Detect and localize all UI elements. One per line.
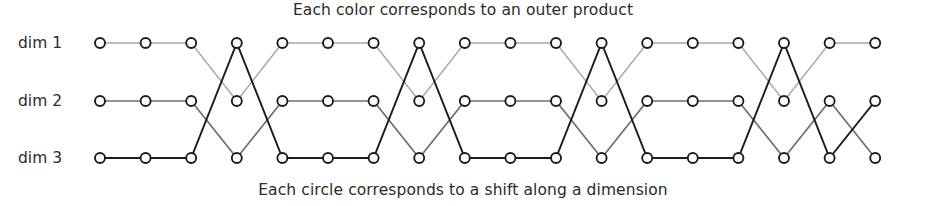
shift-node-circle — [551, 96, 561, 106]
shift-node-circle — [642, 38, 652, 48]
shift-node-circle — [95, 38, 105, 48]
shift-node-circle — [369, 96, 379, 106]
shift-node-circle — [369, 38, 379, 48]
shift-node-circle — [505, 38, 515, 48]
shift-node-circle — [414, 38, 424, 48]
shift-node-circle — [825, 153, 835, 163]
shift-node-circle — [95, 96, 105, 106]
weaving-diagram-figure: Each color corresponds to an outer produ… — [0, 0, 926, 206]
shift-node-circle — [642, 96, 652, 106]
shift-node-circle — [460, 96, 470, 106]
shift-node-circle — [597, 38, 607, 48]
shift-node-circle — [733, 153, 743, 163]
figure-caption-bottom: Each circle corresponds to a shift along… — [0, 181, 926, 199]
shift-node-circle — [141, 96, 151, 106]
shift-node-circle — [186, 38, 196, 48]
shift-node-circle — [505, 96, 515, 106]
shift-node-circle — [323, 96, 333, 106]
shift-node-circle — [733, 38, 743, 48]
shift-node-circle — [460, 153, 470, 163]
shift-node-circle — [505, 153, 515, 163]
shift-node-circle — [232, 153, 242, 163]
shift-node-circle — [323, 38, 333, 48]
shift-node-circle — [232, 96, 242, 106]
shift-node-circle — [141, 153, 151, 163]
shift-node-circle — [414, 153, 424, 163]
shift-node-circle — [277, 96, 287, 106]
shift-node-circle — [688, 38, 698, 48]
shift-node-circle — [186, 153, 196, 163]
shift-node-circle — [870, 153, 880, 163]
shift-node-circle — [733, 96, 743, 106]
shift-node-circle — [597, 153, 607, 163]
shift-node-circle — [870, 38, 880, 48]
shift-node-circle — [825, 96, 835, 106]
shift-node-circle — [186, 96, 196, 106]
shift-node-circle — [870, 96, 880, 106]
shift-node-circle — [779, 38, 789, 48]
shift-node-circle — [825, 38, 835, 48]
shift-node-circle — [779, 96, 789, 106]
shift-node-circle — [642, 153, 652, 163]
series-lines-layer — [100, 43, 875, 158]
shift-node-circle — [779, 153, 789, 163]
shift-node-circle — [551, 38, 561, 48]
shift-node-circle — [688, 96, 698, 106]
shift-node-circle — [688, 153, 698, 163]
shift-node-circle — [369, 153, 379, 163]
series-line — [100, 101, 875, 158]
shift-node-circle — [460, 38, 470, 48]
weaving-plot-svg — [0, 0, 926, 206]
shift-node-circle — [95, 153, 105, 163]
shift-node-circle — [232, 38, 242, 48]
shift-node-circle — [141, 38, 151, 48]
shift-node-circle — [277, 153, 287, 163]
shift-node-circle — [414, 96, 424, 106]
shift-node-circle — [277, 38, 287, 48]
shift-node-circle — [551, 153, 561, 163]
shift-node-circle — [597, 96, 607, 106]
shift-node-circle — [323, 153, 333, 163]
